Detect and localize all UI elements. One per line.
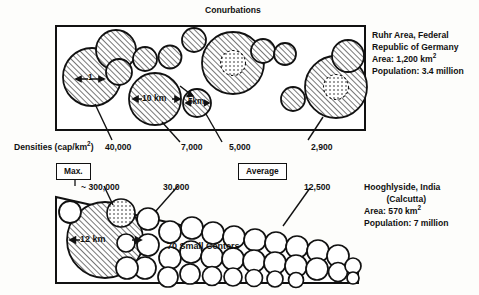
ruhr-caption-area: Area: 1,200 km2 xyxy=(372,54,464,66)
ruhr-caption-line1: Ruhr Area, Federal xyxy=(372,30,464,42)
hooghlyside-density-30000: 30,000 xyxy=(163,182,189,192)
hooghlyside-caption: Hooghlyside, India (Calcutta) Area: 570 … xyxy=(364,182,449,229)
scale-label-12km: 12 km xyxy=(80,234,106,245)
hooghlyside-caption-line1: Hooghlyside, India xyxy=(364,182,449,194)
ruhr-caption: Ruhr Area, Federal Republic of Germany A… xyxy=(372,30,464,77)
densities-label-pre: Densities (cap/km xyxy=(14,142,87,152)
small-centers-label: 70 Small Centers xyxy=(167,241,240,252)
ruhr-caption-population: Population: 3.4 million xyxy=(372,66,464,78)
hooghlyside-caption-population: Population: 7 million xyxy=(364,218,449,230)
ruhr-density-2900: 2,900 xyxy=(311,142,333,152)
scale-label-1km: 1 xyxy=(88,73,93,83)
ruhr-density-40000: 40,000 xyxy=(105,142,131,152)
hooghlyside-density-12500: 12,500 xyxy=(304,182,330,192)
hooghlyside-area-exponent: 2 xyxy=(418,204,422,211)
figure-root: Conurbations xyxy=(0,0,479,295)
ruhr-density-5000: 5,000 xyxy=(229,142,251,152)
ruhr-area-exponent: 2 xyxy=(433,52,437,59)
hooghlyside-caption-line2: (Calcutta) xyxy=(364,194,449,206)
hooghlyside-caption-area: Area: 570 km2 xyxy=(364,206,449,218)
scale-label-10km: 10 km xyxy=(142,93,166,103)
ruhr-caption-line2: Republic of Germany xyxy=(372,42,464,54)
densities-label-post: ) xyxy=(91,142,94,152)
densities-axis-label: Densities (cap/km2) xyxy=(14,142,94,152)
max-marker-box: Max. xyxy=(56,163,91,180)
average-marker-box: Average xyxy=(238,163,287,180)
ruhr-density-7000: 7,000 xyxy=(181,142,203,152)
scale-label-5km: 5km xyxy=(188,97,204,107)
hooghlyside-density-300000: ~ 300,000 xyxy=(81,182,119,192)
